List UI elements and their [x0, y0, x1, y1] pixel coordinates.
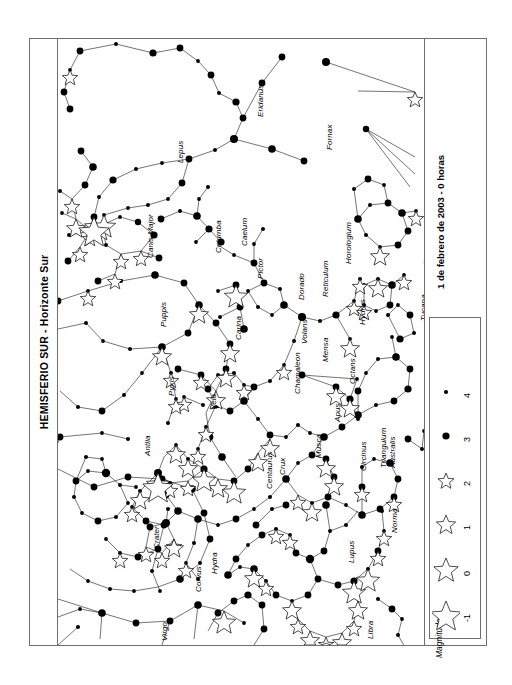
- constellation-label-canis-major: Canis Major: [146, 214, 155, 258]
- constellation-label-volans: Volans: [300, 319, 309, 344]
- constellation-label-chamaleon: Chamaleon: [293, 352, 302, 394]
- constellation-label-crux: Crux: [278, 458, 287, 475]
- constellation-label-corvus: Corvus: [194, 566, 203, 592]
- constellation-label-vela: Vela: [209, 394, 218, 410]
- constellation-label-dorado: Dorado: [297, 273, 306, 300]
- constellation-label-reticulum: Reticulum: [321, 261, 330, 297]
- constellation-lines: [58, 44, 424, 645]
- constellation-label-lupus: Lupus: [347, 541, 356, 563]
- constellation-label-norma: Norma: [390, 508, 399, 533]
- legend-row-mag-1: 1: [430, 500, 480, 544]
- star-outline-icon: [432, 500, 460, 544]
- star-outline-icon: [432, 456, 460, 500]
- constellation-label-octans: Octans: [348, 358, 357, 384]
- constellation-label-fornax: Fornax: [325, 125, 334, 151]
- sky-map-svg: [58, 39, 425, 645]
- legend-label-mag-4: 4: [462, 354, 476, 398]
- legend-row-mag-2: 2: [430, 456, 480, 500]
- star-outline-icon: [432, 592, 460, 636]
- constellation-label-circinus: Circinus: [359, 441, 368, 471]
- constellation-label-virgo: Virgo: [160, 622, 169, 641]
- constellation-label-apus: Apus: [333, 403, 342, 422]
- constellation-label-mensa: Mensa: [321, 337, 330, 362]
- constellation-label-columba: Columba: [214, 220, 223, 253]
- constellation-label-horologium: Horologium: [344, 222, 353, 264]
- sky-map-area: Eridanus Fornax Lepus Canis Major Columb…: [58, 39, 425, 645]
- constellation-label-caelum: Caelum: [240, 218, 249, 246]
- constellation-label-carina: Carina: [234, 316, 243, 340]
- constellation-label-hydrus: Hydrus: [358, 299, 367, 325]
- constellation-label-pyxis: Pyxis: [167, 376, 176, 396]
- constellation-label-puppis: Puppis: [159, 302, 168, 327]
- filled-dot-icon: [432, 368, 460, 412]
- legend-panel: 1 de febrero de 2003 - 0 horas Magnitude…: [425, 39, 486, 645]
- constellation-label-libra: Libra: [366, 621, 375, 639]
- constellation-label-hydra: Hydra: [210, 552, 219, 574]
- magnitudes-legend-box: Magnitudes -1 0 1: [429, 317, 481, 639]
- date-label: 1 de febrero de 2003 - 0 horas: [435, 49, 446, 289]
- constellation-label-pictor: Pictor: [256, 258, 265, 279]
- legend-row-mag-minus1: -1: [430, 592, 480, 636]
- constellation-label-eridanus: Eridanus: [256, 85, 265, 117]
- filled-dot-icon: [432, 412, 460, 456]
- legend-row-mag-3: 3: [430, 412, 480, 456]
- constellation-label-crater: Crater: [152, 526, 161, 549]
- star-outline-icon: [432, 546, 460, 590]
- constellation-label-musca: Musca: [314, 434, 323, 458]
- constellation-label-triangulum-australis: Triangulum Australis: [380, 412, 397, 468]
- title-strip: HEMISFERIO SUR - Horizonte Sur: [30, 39, 58, 645]
- constellation-label-antlia: Antlia: [143, 435, 152, 456]
- stars-magnitude-2: [62, 70, 423, 645]
- constellation-label-lepus: Lepus: [176, 141, 185, 163]
- legend-row-mag-0: 0: [430, 546, 480, 590]
- star-chart-page: HEMISFERIO SUR - Horizonte Sur: [0, 0, 512, 685]
- page-title: HEMISFERIO SUR - Horizonte Sur: [30, 54, 58, 630]
- legend-row-mag-4: 4: [430, 368, 480, 412]
- stars-magnitude-0: [92, 215, 379, 633]
- constellation-label-centaurus: Centaurus: [265, 451, 274, 489]
